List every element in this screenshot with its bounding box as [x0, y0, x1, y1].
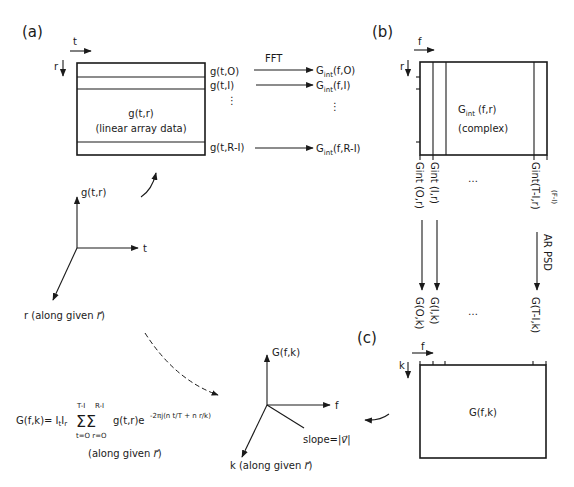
slope-label: slope=|v⃗|	[303, 434, 351, 446]
fft-output-r-1: Gint(f,R-I)	[316, 143, 361, 157]
column-label-1: Gint (I,r)	[429, 162, 440, 204]
sum-upper-r: R-I	[95, 402, 104, 410]
row-label-r-1: g(t,R-I)	[210, 142, 244, 153]
panel-c: (c) f k G(f,k) G(f,k) f slope=|v⃗| k (al…	[230, 329, 546, 471]
panel-b-label: (b)	[372, 23, 393, 41]
fk-transform-equation: G(f,k)= ItIr T-I R-I ΣΣ t=O r=O g(t,r)e …	[16, 402, 211, 459]
column-label-last: Gint(T-I,r)	[530, 162, 541, 210]
result-label-last: G(T-I,k)	[530, 297, 541, 333]
plot-axis-f-label: f	[335, 400, 339, 411]
equation-body: g(t,r)e	[113, 415, 145, 426]
ar-psd-label: AR PSD	[542, 234, 553, 271]
dashed-transition-arrow-icon	[145, 333, 218, 395]
r-axis-arrow-icon	[53, 248, 77, 300]
plot-axis-r-label: r (along given r⃗)	[24, 310, 105, 321]
panel-a-label: (a)	[22, 23, 43, 41]
plot-axis-g-label: G(f,k)	[272, 347, 300, 358]
curved-arrow-icon	[365, 414, 389, 420]
box-title: Gint(f,r)	[458, 104, 497, 118]
vertical-ellipsis: ⋮	[227, 95, 237, 106]
box-subtitle: (complex)	[458, 123, 508, 134]
slope-line	[267, 405, 304, 428]
fk-processing-diagram: (a) t r g(t,r) (linear array data) g(t,O…	[0, 0, 574, 487]
fft-label: FFT	[265, 53, 283, 64]
panel-a: (a) t r g(t,r) (linear array data) g(t,O…	[22, 23, 361, 321]
column-annotation: (F-I)	[550, 190, 558, 204]
sum-symbol-icon: ΣΣ	[76, 412, 96, 431]
axis-r-label: r	[54, 61, 59, 72]
sum-upper-t: T-I	[76, 402, 85, 410]
horizontal-ellipsis: …	[468, 173, 478, 184]
box-subtitle: (linear array data)	[95, 123, 186, 134]
axis-k-label: k	[399, 360, 405, 371]
fft-output-0: Gint(f,O)	[316, 65, 355, 79]
box-title: G(f,k)	[469, 407, 497, 418]
result-label-1: G(I,k)	[429, 297, 440, 325]
equation-exponent: -2πj(n t/T + n r/k)	[150, 412, 211, 420]
axis-r-label: r	[400, 61, 405, 72]
svg-text:Gint(f,R-I): Gint(f,R-I)	[316, 143, 361, 157]
sum-lower: t=O r=O	[76, 432, 107, 440]
curved-arrow-icon	[141, 173, 156, 197]
axis-f-label: f	[421, 341, 425, 352]
result-label-0: G(O,k)	[414, 297, 425, 329]
plot-axis-g-label: g(t,r)	[81, 187, 106, 198]
row-label-1: g(t,I)	[210, 80, 234, 91]
fft-output-1: Gint(f,I)	[316, 80, 350, 94]
panel-c-label: (c)	[357, 329, 377, 347]
row-label-0: g(t,O)	[210, 66, 239, 77]
plot-axis-k-label: k (along given r⃗)	[230, 460, 313, 471]
equation-note: (along given r⃗)	[88, 448, 162, 459]
box-title: g(t,r)	[128, 108, 153, 119]
k-axis-arrow-icon	[242, 405, 267, 457]
column-label-0: Gint (O,r)	[414, 162, 425, 209]
svg-text:Gint(f,I): Gint(f,I)	[316, 80, 350, 94]
panel-b: (b) f r Gint(f,r) (complex) Gint (O,r) G…	[372, 23, 558, 333]
svg-text:Gint(f,O): Gint(f,O)	[316, 65, 355, 79]
vertical-ellipsis: ⋮	[330, 101, 340, 112]
horizontal-ellipsis: …	[468, 306, 478, 317]
axis-t-label: t	[73, 36, 77, 47]
plot-axis-t-label: t	[143, 243, 147, 254]
equation-lhs: G(f,k)= ItIr	[16, 415, 67, 428]
axis-f-label: f	[418, 36, 422, 47]
